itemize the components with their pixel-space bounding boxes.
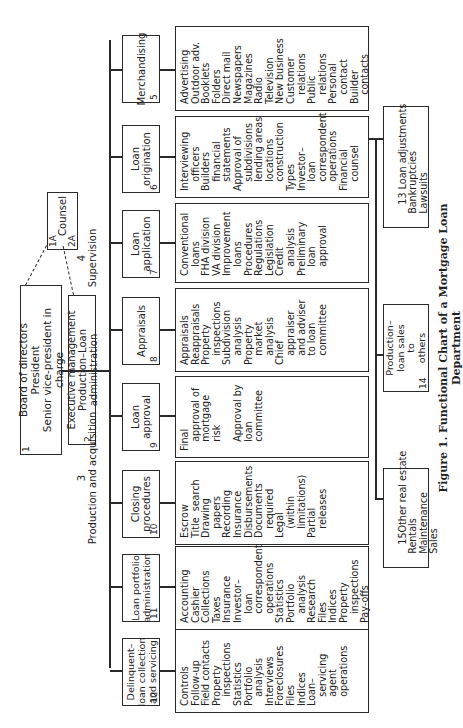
subunit-number-13: 13 [397, 192, 408, 204]
unit-box-9: 9 Loan approval [122, 383, 160, 451]
dashed-link-exec-counsel [63, 246, 74, 295]
drop-line-11 [110, 587, 122, 589]
unit-title-12: Delinquent– loan collection and servicin… [123, 639, 159, 705]
subunit-number-15: 15 [397, 532, 408, 544]
drop-line-14 [375, 355, 383, 357]
link-line-11 [160, 587, 175, 589]
link-line-8 [160, 330, 175, 332]
board-line-2: President [29, 346, 41, 395]
unit-box-12: 12 Delinquent– loan collection and servi… [122, 638, 160, 706]
drop-line-6 [110, 157, 122, 159]
drop-line-15 [375, 499, 383, 501]
link-line-10 [160, 503, 175, 505]
board-line-1: Board of directors [17, 323, 29, 417]
subunit-lines-14: Production– loan sales to others [384, 305, 428, 391]
counsel-label: Counsel [57, 196, 68, 236]
drop-line-9 [110, 416, 122, 418]
subunit-lines-15: Other real estate Rentals Maintenance Sa… [397, 451, 440, 563]
drop-line-10 [110, 503, 122, 505]
subunit-box-15: 15Other real estate Rentals Maintenance … [383, 468, 429, 568]
unit-details-6: Interviewing officers Builders financial… [175, 116, 369, 198]
unit-details-9: Final approval of mortgage risk Approval… [175, 376, 369, 458]
counsel-box: 1A 2A Counsel [47, 192, 78, 250]
drop-line-5 [110, 70, 122, 72]
drop-line-7 [110, 243, 122, 245]
trunk-line [109, 40, 111, 668]
unit-box-10: 10 Closing procedures [122, 470, 160, 538]
unit-box-8: 8 Appraisals [122, 297, 160, 365]
unit-details-12: Controls Follow-up Field contacts Proper… [175, 629, 369, 713]
dashed-link-board-counsel [25, 245, 47, 285]
group-production: 3 Production and acquisition [76, 348, 98, 608]
subunit-lines-13: Loan adjustments Bankruptcies Lawsuits [397, 104, 429, 223]
subunit-box-13: 13 Loan adjustments Bankruptcies Lawsuit… [383, 106, 429, 228]
group-supervision: 4 Supervision [76, 218, 98, 298]
group-supervision-label: Supervision [87, 218, 98, 298]
unit-box-6: 6 Loan origination [122, 125, 160, 193]
unit-details-11: Accounting Cashier Collections Taxes Ins… [175, 546, 369, 630]
unit-title-9: Loan approval [123, 384, 159, 450]
group-supervision-number: 4 [76, 218, 87, 298]
group-production-label: Production and acquisition [87, 348, 98, 608]
drop-line-13 [375, 139, 383, 141]
unit-box-11: 11 Loan portfolio administration [122, 554, 160, 622]
drop-line-12 [110, 671, 122, 673]
link-line-5 [160, 70, 175, 72]
figure-caption: Figure 1. Functional Chart of a Mortgage… [437, 168, 463, 528]
unit-title-6: Loan origination [123, 126, 159, 192]
link-line-9 [160, 416, 175, 418]
unit-details-5: Advertising Outdoor adv. Booklets Folder… [175, 26, 369, 111]
unit-title-8: Appraisals [123, 298, 159, 364]
drop-line-8 [110, 330, 122, 332]
unit-title-10: Closing procedures [123, 471, 159, 537]
subunit-box-14: 14 Production– loan sales to others [383, 304, 429, 392]
unit-details-7: Conventional loans FHA division VA divis… [175, 203, 369, 283]
link-line-7 [160, 243, 175, 245]
unit-details-8: Appraisals Reappraisals Property inspect… [175, 288, 369, 372]
unit-box-7: 7 Loan application [122, 210, 160, 278]
board-box: 1 Board of directors President Senior vi… [20, 285, 62, 455]
subunit-horizontal [375, 140, 377, 500]
group-production-number: 3 [76, 348, 87, 608]
unit-details-10: Escrow Title search Drawing papers Recor… [175, 461, 369, 545]
unit-title-5: Merchandising [123, 36, 159, 102]
unit-title-7: Loan application [123, 211, 159, 277]
unit-title-11: Loan portfolio administration [123, 555, 159, 621]
link-line-6 [160, 157, 175, 159]
link-line-12 [160, 671, 175, 673]
unit-box-5: 5 Merchandising [122, 35, 160, 103]
